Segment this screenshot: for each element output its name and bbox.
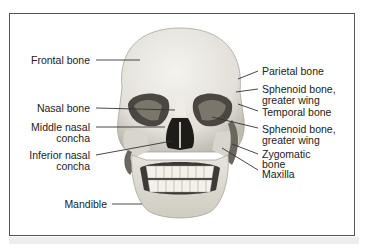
label-maxilla: Maxilla xyxy=(262,169,295,180)
label-temporal-bone: Temporal bone xyxy=(262,107,331,118)
label-frontal-bone: Frontal bone xyxy=(31,55,90,66)
label-parietal-bone: Parietal bone xyxy=(262,66,324,77)
label-sphenoid-greater-wing-1-line2: greater wing xyxy=(262,95,320,106)
label-mandible: Mandible xyxy=(64,199,107,210)
label-inferior-nasal-concha-line2: concha xyxy=(56,161,90,172)
label-middle-nasal-concha-line2: concha xyxy=(56,133,90,144)
label-nasal-bone: Nasal bone xyxy=(37,103,90,114)
label-sphenoid-greater-wing-2-line2: greater wing xyxy=(262,135,320,146)
